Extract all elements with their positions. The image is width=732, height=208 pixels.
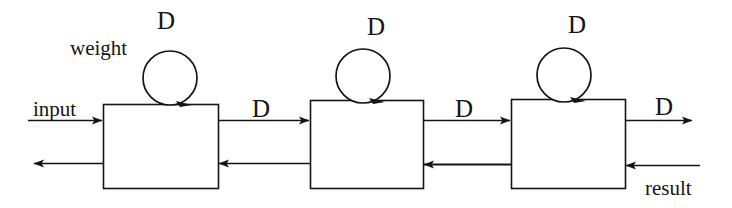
delay-label-loop-3: D bbox=[568, 12, 586, 37]
delay-label-loop-1: D bbox=[157, 8, 175, 33]
input-label: input bbox=[33, 99, 76, 120]
self-loop-1 bbox=[143, 51, 197, 107]
delay-label-loop-2: D bbox=[367, 14, 385, 39]
self-loop-3 bbox=[537, 48, 591, 103]
delay-label-link-2-3: D bbox=[455, 96, 473, 121]
diagram-canvas bbox=[0, 0, 732, 208]
delay-label-output: D bbox=[655, 94, 673, 119]
self-loop-2 bbox=[336, 49, 390, 104]
processing-block-3 bbox=[512, 100, 626, 189]
weight-label: weight bbox=[70, 38, 127, 59]
processing-block-1 bbox=[104, 105, 219, 189]
processing-block-2 bbox=[311, 101, 424, 189]
result-label: result bbox=[645, 178, 692, 199]
delay-label-link-1-2: D bbox=[252, 96, 270, 121]
block-diagram-figure: D D D weight input D D D result bbox=[0, 0, 732, 208]
